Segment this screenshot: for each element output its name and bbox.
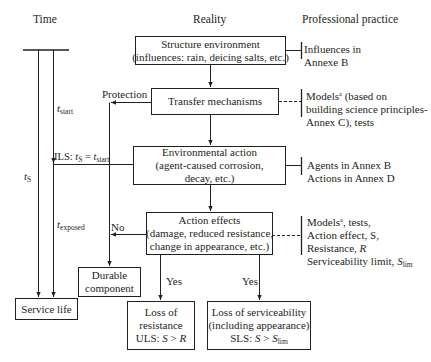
box-line: Action effects [179,214,241,227]
practice-line: Agents in Annex B [307,159,395,172]
service-life-box: Service life [15,298,78,320]
yes-right-label: Yes [242,275,258,288]
action-effects-box: Action effects (damage, reduced resistan… [146,212,273,255]
practice-line: Annexe B [304,56,361,69]
practice-line: Annex C), tests [306,116,428,129]
box-line: change in appearance, etc.) [150,240,269,253]
box-line: (damage, reduced resistance, [146,227,273,240]
structure-environment-box: Structure environment (influences: rain,… [135,36,286,65]
box-line: Transfer mechanisms [168,95,262,108]
practice-line: Serviceability limit, Slim [307,255,413,268]
durable-component-box: Durable component [78,267,141,297]
box-line: Loss of [145,306,178,319]
no-label: No [111,221,124,234]
header-time: Time [33,13,57,25]
t-start-label: tstart [57,102,73,115]
box-line: (including appearance) [208,319,309,332]
practice-line: Action effect, S, [307,229,413,242]
practice-line: Resistance, R [307,242,413,255]
practice-environmental-action: Agents in Annex B Actions in Annex D [307,159,395,185]
box-line: component [85,282,134,295]
practice-line: Modelsa, tests, [307,216,413,229]
box-line: Environmental action [162,146,257,159]
yes-left-label: Yes [166,275,182,288]
header-professional-practice: Professional practice [302,13,398,25]
t-s-label: tS [24,170,31,183]
ils-label: ILS: tS = tstart [54,150,109,163]
practice-line: Actions in Annex D [307,172,395,185]
practice-transfer-mechanisms: Modelsa (based on building science princ… [306,90,428,129]
t-exposed-label: texposed [57,218,85,231]
practice-action-effects: Modelsa, tests, Action effect, S, Resist… [307,216,413,268]
transfer-mechanisms-box: Transfer mechanisms [151,88,279,115]
box-line: Service life [21,303,71,316]
header-reality: Reality [193,13,226,25]
box-line: (agent-caused corrosion, [155,159,263,172]
uls-criterion: ULS: S > R [136,332,187,345]
box-line: resistance [139,319,182,332]
sls-criterion: SLS: S > Slim [230,332,288,345]
practice-line: Modelsa (based on [306,90,428,103]
box-line: (influences: rain, deicing salts, etc.) [132,51,289,64]
practice-line: Influences in [304,43,361,56]
box-line: Structure environment [161,38,260,51]
loss-of-resistance-box: Loss of resistance ULS: S > R [127,301,195,350]
box-line: Durable [92,269,127,282]
practice-line: building science principles- [306,103,428,116]
environmental-action-box: Environmental action (agent-caused corro… [133,146,286,185]
practice-structure-environment: Influences in Annexe B [304,43,361,69]
box-line: decay, etc.) [185,172,235,185]
protection-label: Protection [102,88,147,101]
box-line: Loss of serviceability [212,306,307,319]
loss-of-serviceability-box: Loss of serviceability (including appear… [207,301,311,350]
